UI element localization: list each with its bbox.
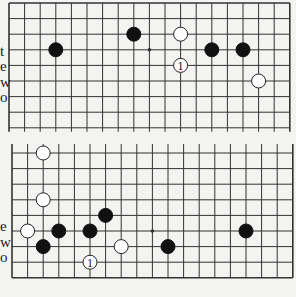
black-stone (205, 43, 219, 57)
bottom-diagram: 1 (12, 144, 293, 278)
black-stone (83, 224, 97, 238)
white-stone (36, 146, 50, 160)
white-stone: 1 (174, 58, 188, 73)
black-stone (236, 43, 250, 57)
top-diagram: 1 (9, 3, 290, 132)
white-stone: 1 (83, 255, 97, 270)
black-stone (36, 240, 50, 254)
black-stone (99, 208, 113, 222)
white-stone (174, 27, 188, 41)
black-stone (52, 224, 66, 238)
black-stone (239, 224, 253, 238)
black-stone (127, 27, 141, 41)
white-stone (21, 224, 35, 238)
white-stone (36, 193, 50, 207)
hoshi-point (148, 48, 152, 52)
black-stone (49, 43, 63, 57)
black-stone (161, 240, 175, 254)
white-stone (114, 240, 128, 254)
move-number-label: 1 (178, 59, 184, 73)
hoshi-point (151, 229, 155, 233)
white-stone (252, 74, 266, 88)
grid-lines (12, 144, 293, 278)
move-number-label: 1 (87, 256, 93, 270)
grid-lines (9, 3, 290, 132)
go-diagrams: 11 (0, 0, 296, 297)
